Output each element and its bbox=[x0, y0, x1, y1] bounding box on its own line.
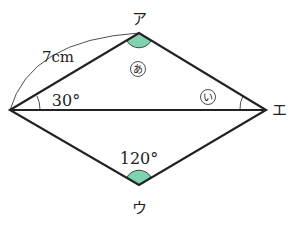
angle-i-label: い bbox=[203, 92, 213, 103]
angle-a-label: あ bbox=[133, 64, 143, 75]
angle-a-highlight bbox=[127, 33, 151, 48]
rhombus-diagram: ア エ ウ 7cm 30° 120° あ い bbox=[0, 0, 290, 225]
angle-i-arc bbox=[240, 96, 243, 110]
angle-120-label: 120° bbox=[120, 149, 159, 168]
vertex-e-label: エ bbox=[272, 101, 287, 119]
vertex-a-label: ア bbox=[132, 10, 147, 28]
vertex-u-label: ウ bbox=[132, 199, 147, 217]
angle-u-highlight bbox=[127, 170, 151, 185]
angle-30-label: 30° bbox=[52, 91, 80, 110]
side-length-label: 7cm bbox=[42, 48, 74, 66]
angle-30-arc bbox=[37, 96, 40, 110]
